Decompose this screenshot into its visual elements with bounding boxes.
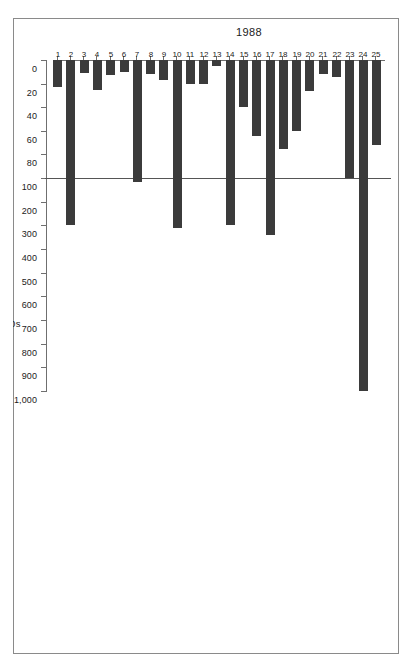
category-axis-label: 23 (345, 50, 354, 59)
bar (186, 60, 195, 84)
value-axis-tick-label: 200 (22, 206, 37, 216)
value-axis-tick (41, 202, 47, 203)
value-axis-tick (41, 60, 47, 61)
category-axis-label: 2 (69, 50, 73, 59)
bar (319, 60, 328, 74)
bar (146, 60, 155, 74)
bar (66, 60, 75, 225)
category-axis-label: 16 (252, 50, 261, 59)
bar (332, 60, 341, 77)
bar (292, 60, 301, 131)
chart-title: 1988 (236, 26, 262, 38)
category-axis-label: 5 (109, 50, 113, 59)
bar (53, 60, 62, 87)
category-axis-label: 18 (279, 50, 288, 59)
bar (106, 60, 115, 75)
category-axis-label: 21 (319, 50, 328, 59)
value-axis-tick-label: 1,000 (14, 395, 37, 405)
bar (173, 60, 182, 228)
value-axis-tick (41, 249, 47, 250)
value-axis-tick (41, 320, 47, 321)
category-axis-label: 9 (162, 50, 166, 59)
bar (359, 60, 368, 391)
value-axis-tick-label: 300 (22, 229, 37, 239)
value-axis-tick-label: 400 (22, 253, 37, 263)
value-axis-tick-label: 700 (22, 324, 37, 334)
value-axis-tick-label: 0 (32, 64, 37, 74)
category-axis-label: 22 (332, 50, 341, 59)
category-axis-label: 25 (372, 50, 381, 59)
value-axis-tick-label: 600 (22, 300, 37, 310)
value-axis-tick (41, 225, 47, 226)
category-axis-label: 17 (266, 50, 275, 59)
value-axis-tick-label: 80 (27, 158, 37, 168)
value-axis-tick (41, 84, 47, 85)
bar (93, 60, 102, 90)
value-axis-tick-label: 800 (22, 348, 37, 358)
category-axis-label: 4 (95, 50, 99, 59)
value-axis-tick (41, 367, 47, 368)
bar (345, 60, 354, 178)
value-axis-title: £000s (13, 318, 21, 329)
value-axis-tick-label: 500 (22, 277, 37, 287)
bar (252, 60, 261, 136)
bar (226, 60, 235, 225)
page-root: £000s 1988 02040608010020030040050060070… (0, 0, 414, 670)
chart-canvas: £000s 1988 02040608010020030040050060070… (13, 18, 399, 654)
value-axis-tick (41, 154, 47, 155)
bar (305, 60, 314, 91)
category-axis-label: 14 (226, 50, 235, 59)
category-axis-label: 3 (82, 50, 86, 59)
plot-area: £000s 1988 02040608010020030040050060070… (13, 18, 399, 654)
bar (80, 60, 89, 73)
category-axis-label: 15 (239, 50, 248, 59)
bar (279, 60, 288, 149)
category-axis-label: 11 (186, 50, 194, 59)
category-axis-label: 6 (122, 50, 126, 59)
bar (213, 60, 222, 66)
bar (133, 60, 142, 182)
bar (120, 60, 129, 72)
category-axis-label: 20 (306, 50, 315, 59)
bar (266, 60, 275, 235)
value-axis-tick (41, 391, 47, 392)
rotated-chart-container: £000s 1988 02040608010020030040050060070… (13, 18, 399, 654)
category-axis-label: 1 (55, 50, 59, 59)
category-axis-label: 24 (359, 50, 368, 59)
bar (159, 60, 168, 80)
category-axis-label: 12 (199, 50, 208, 59)
category-axis-label: 13 (213, 50, 222, 59)
value-axis-tick-label: 100 (22, 182, 37, 192)
value-axis-tick (41, 107, 47, 108)
value-axis-tick-label: 900 (22, 371, 37, 381)
bar (372, 60, 381, 145)
value-axis-tick (41, 273, 47, 274)
category-axis-label: 7 (135, 50, 139, 59)
value-axis-tick (41, 131, 47, 132)
value-axis-tick (41, 296, 47, 297)
bar (239, 60, 248, 107)
value-axis-tick (41, 344, 47, 345)
category-axis-label: 10 (173, 50, 182, 59)
category-axis-label: 8 (148, 50, 152, 59)
value-axis-tick-label: 60 (27, 135, 37, 145)
value-axis-tick-label: 20 (27, 88, 37, 98)
category-axis-label: 19 (292, 50, 301, 59)
value-axis-tick-label: 40 (27, 111, 37, 121)
reference-line-100 (45, 178, 391, 179)
bar (199, 60, 208, 84)
